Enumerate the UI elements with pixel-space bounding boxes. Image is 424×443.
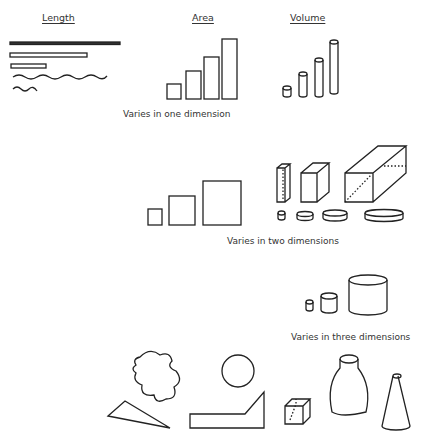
discs-icon: [278, 210, 403, 222]
boxes-icon: [277, 146, 406, 202]
diagram-canvas: [0, 0, 424, 443]
cylinders-three-dim-icon: [306, 275, 387, 315]
area-squares-icon: [148, 181, 241, 225]
irregular-shapes-icon: [108, 351, 264, 428]
area-bars-icon: [167, 39, 237, 99]
volume-cylinders-icon: [283, 40, 338, 97]
length-lines-icon: [10, 42, 120, 91]
solids-icon: [285, 355, 410, 430]
